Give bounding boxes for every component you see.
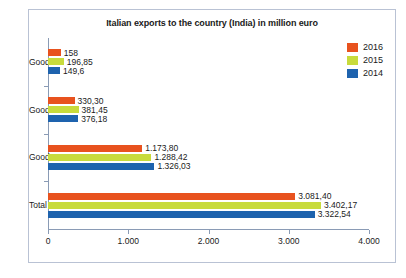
category-label: Good B	[29, 105, 44, 115]
x-axis-tick	[209, 230, 210, 234]
x-axis-tick-label: 1.000	[118, 236, 139, 246]
bar-2014-good-a	[48, 163, 154, 170]
category-label: Good A	[29, 152, 44, 162]
chart-container: Italian exports to the country (India) i…	[28, 9, 396, 263]
x-axis-tick	[289, 230, 290, 234]
plot-area: 01.0002.0003.0004.000Good C158196,85149,…	[29, 10, 397, 264]
bar-2015-good-a	[48, 154, 151, 161]
y-axis-tick	[44, 134, 48, 135]
x-axis-tick-label: 4.000	[358, 236, 379, 246]
bar-2015-good-b	[48, 106, 79, 113]
bar-value-label: 3.322,54	[318, 209, 351, 219]
bar-2016-good-c	[48, 49, 61, 56]
x-axis-tick	[369, 230, 370, 234]
x-axis-tick-label: 3.000	[278, 236, 299, 246]
bar-2016-good-b	[48, 97, 75, 104]
bar-value-label: 149,6	[63, 66, 84, 76]
y-axis-tick	[44, 181, 48, 182]
x-axis-tick	[128, 230, 129, 234]
category-label: Total	[29, 200, 44, 210]
y-axis-tick	[44, 86, 48, 87]
bar-2015-good-c	[48, 58, 64, 65]
bar-2014-total	[48, 211, 315, 218]
bar-value-label: 376,18	[81, 114, 107, 124]
bar-2014-good-c	[48, 67, 60, 74]
bar-2014-good-b	[48, 115, 78, 122]
bar-2016-total	[48, 193, 295, 200]
bar-value-label: 1.326,03	[157, 161, 190, 171]
bar-2016-good-a	[48, 145, 142, 152]
bar-2015-total	[48, 202, 321, 209]
x-axis-tick	[48, 230, 49, 234]
x-axis-tick-label: 2.000	[198, 236, 219, 246]
category-label: Good C	[29, 57, 44, 67]
x-axis-tick-label: 0	[46, 236, 51, 246]
